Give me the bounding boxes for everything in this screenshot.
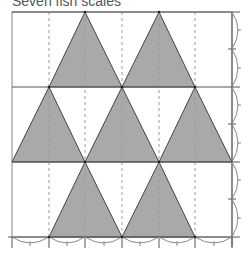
bottom-measure-axis [12, 237, 232, 248]
fish-scales-diagram [0, 0, 249, 258]
triangles [12, 12, 232, 237]
right-measure-axis [228, 12, 241, 247]
